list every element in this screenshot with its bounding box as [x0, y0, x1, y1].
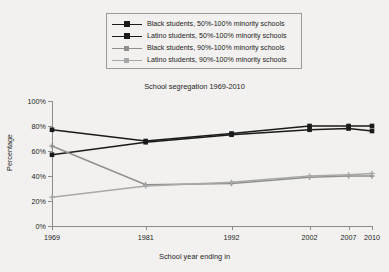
data-point-marker [143, 140, 148, 145]
x-tick-label: 2002 [302, 233, 318, 242]
x-tick-mark [146, 226, 147, 230]
series-1 [50, 126, 375, 157]
legend-label: Latino students, 50%-100% minority schoo… [147, 31, 287, 41]
plot-area: 0%20%40%60%80%100% 196919811992200220072… [52, 101, 372, 226]
x-tick-mark [310, 226, 311, 230]
x-tick-label: 2010 [364, 233, 380, 242]
data-point-marker [309, 173, 310, 178]
x-tick-mark [52, 226, 53, 230]
y-tick-label: 20% [32, 197, 46, 206]
segregation-line-chart: Black students, 50%-100% minority school… [0, 0, 389, 272]
legend-swatch-latino-50-100 [112, 31, 142, 41]
y-tick-label: 60% [32, 147, 46, 156]
y-tick-label: 100% [28, 97, 46, 106]
data-point-marker [370, 124, 375, 129]
legend-swatch-black-50-100 [112, 19, 142, 29]
series-line [52, 146, 372, 185]
legend-swatch-latino-90-100 [112, 55, 142, 65]
legend-label: Black students, 50%-100% minority school… [147, 19, 285, 29]
legend-item: Latino students, 90%-100% minority schoo… [112, 54, 296, 66]
x-tick-label: 1969 [44, 233, 60, 242]
x-tick-mark [349, 226, 350, 230]
x-axis-label: School year ending in [0, 252, 389, 261]
data-point-marker [50, 127, 55, 132]
y-axis-label: Percentage [5, 118, 14, 188]
y-tick-label: 0% [36, 222, 46, 231]
legend-item: Black students, 90%-100% minority school… [112, 42, 296, 54]
data-point-marker [231, 180, 232, 185]
x-tick-label: 1992 [224, 233, 240, 242]
data-point-marker [346, 126, 351, 131]
x-tick-label: 2007 [341, 233, 357, 242]
legend-label: Black students, 90%-100% minority school… [147, 43, 285, 53]
x-tick-mark [232, 226, 233, 230]
series-0 [50, 124, 375, 144]
legend-label: Latino students, 90%-100% minority schoo… [147, 55, 287, 65]
x-tick-label: 1981 [138, 233, 154, 242]
data-point-marker [229, 132, 234, 137]
chart-legend: Black students, 50%-100% minority school… [106, 13, 302, 69]
legend-item: Black students, 50%-100% minority school… [112, 18, 296, 30]
data-point-marker [307, 127, 312, 132]
chart-title: School segregation 1969-2010 [0, 82, 389, 91]
legend-swatch-black-90-100 [112, 43, 142, 53]
series-3 [49, 171, 374, 200]
y-tick-label: 40% [32, 172, 46, 181]
y-tick-label: 80% [32, 122, 46, 131]
data-point-marker [51, 195, 52, 200]
series-line [52, 129, 372, 155]
series-layer [52, 101, 372, 226]
x-axis-line [52, 226, 372, 227]
series-line [52, 126, 372, 141]
series-2 [49, 143, 374, 187]
data-point-marker [145, 183, 146, 188]
data-point-marker [370, 129, 375, 134]
data-point-marker [371, 171, 372, 176]
x-tick-mark [372, 226, 373, 230]
data-point-marker [50, 152, 55, 157]
data-point-marker [348, 172, 349, 177]
legend-item: Latino students, 50%-100% minority schoo… [112, 30, 296, 42]
data-point-marker [51, 143, 52, 148]
